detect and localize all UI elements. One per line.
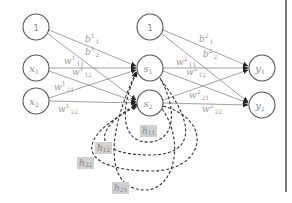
svg-text:1: 1 [33, 23, 39, 33]
layer2-labels: b21 b22 w211 w212 w221 w222 [176, 32, 222, 115]
label-w1-22: w122 [58, 102, 78, 115]
node-s1: s1 [137, 55, 163, 81]
node-x1: x1 [23, 55, 49, 81]
layer1-edges [48, 30, 136, 103]
label-b2-1: b21 [199, 32, 213, 45]
label-b2-2: b22 [203, 47, 218, 60]
label-w1-12: w112 [72, 65, 92, 78]
loop-h22 [92, 106, 197, 171]
label-w1-21: w121 [54, 80, 74, 93]
input-layer: 1 x1 x2 [23, 14, 49, 114]
label-b1-1: b11 [85, 32, 99, 45]
node-bias2: 1 [137, 14, 163, 40]
label-b1-2: b12 [85, 45, 100, 58]
layer1-labels: b11 b12 w111 w112 w121 w122 [54, 32, 100, 115]
label-h21: h21 [112, 182, 129, 194]
recurrent-labels: h11 h12 h22 h21 [77, 125, 157, 194]
node-bias1: 1 [23, 14, 49, 40]
output-layer: y1 y2 [249, 55, 275, 118]
node-s2: s2 [137, 90, 163, 116]
node-y2: y2 [249, 92, 275, 118]
edge-w1-22 [49, 101, 136, 103]
node-x2: x2 [23, 88, 49, 114]
label-h12: h12 [95, 142, 112, 154]
label-h22: h22 [77, 157, 94, 169]
label-h11: h11 [140, 125, 157, 137]
label-w2-21: w221 [189, 88, 209, 101]
hidden-layer: 1 s1 s2 [137, 14, 163, 116]
rnn-diagram: 1 x1 x2 1 s1 s2 y1 [0, 0, 292, 203]
node-y1: y1 [249, 55, 275, 81]
svg-text:1: 1 [147, 23, 153, 33]
